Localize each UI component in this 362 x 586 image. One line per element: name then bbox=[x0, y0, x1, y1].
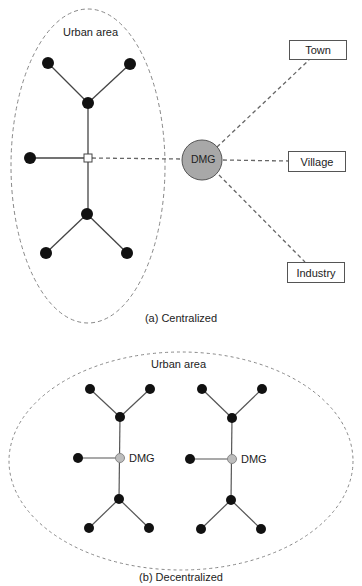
substation-node bbox=[84, 154, 92, 162]
load-node bbox=[185, 454, 195, 464]
load-node bbox=[84, 523, 94, 533]
urban-area-label: Urban area bbox=[63, 26, 118, 38]
local-dmg-label-right: DMG bbox=[241, 453, 267, 465]
load-node bbox=[85, 384, 95, 394]
local-dmg-node-right bbox=[228, 455, 237, 464]
junction-node bbox=[227, 413, 237, 423]
urban-area-boundary-decentralized bbox=[9, 352, 353, 570]
load-node bbox=[196, 524, 206, 534]
load-node bbox=[42, 57, 54, 69]
load-node bbox=[197, 384, 207, 394]
load-node bbox=[121, 247, 133, 259]
central-dmg-label: DMG bbox=[191, 153, 216, 165]
load-node bbox=[144, 523, 154, 533]
urban-area-label-decentralized: Urban area bbox=[151, 358, 206, 370]
local-dmg-label-left: DMG bbox=[129, 452, 155, 464]
load-node bbox=[256, 524, 266, 534]
load-node bbox=[73, 453, 83, 463]
load-node bbox=[145, 384, 155, 394]
junction-node bbox=[81, 208, 93, 220]
junction-node bbox=[82, 97, 94, 109]
consumer-box-town: Town bbox=[289, 40, 347, 60]
junction-node bbox=[115, 412, 125, 422]
load-node bbox=[257, 384, 267, 394]
consumer-box-industry: Industry bbox=[287, 262, 345, 283]
caption-centralized: (a) Centralized bbox=[0, 312, 362, 324]
load-node bbox=[40, 247, 52, 259]
junction-node bbox=[114, 494, 124, 504]
consumer-box-village: Village bbox=[288, 151, 346, 172]
diagram-canvas bbox=[0, 0, 362, 586]
load-node bbox=[124, 58, 136, 70]
load-node bbox=[24, 152, 36, 164]
junction-node bbox=[226, 495, 236, 505]
local-dmg-node-left bbox=[116, 454, 125, 463]
caption-decentralized: (b) Decentralized bbox=[0, 571, 362, 583]
